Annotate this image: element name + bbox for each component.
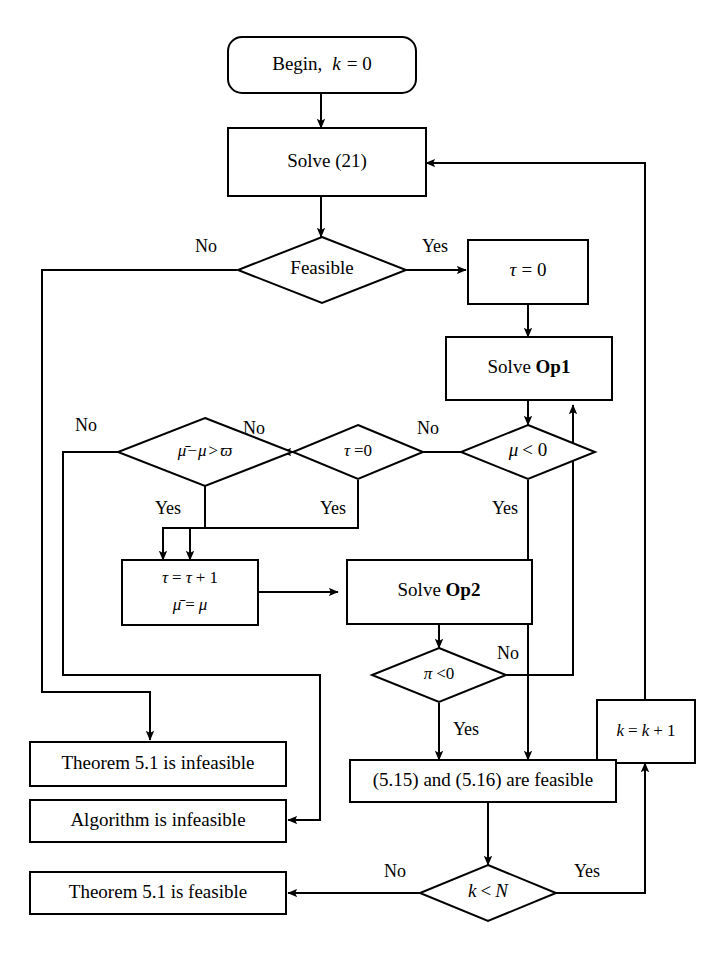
label-feasible-no: No [195, 236, 217, 256]
label-kltn-no: No [384, 861, 406, 881]
tau-eq-zero-label: τ=0 [344, 441, 372, 460]
node-tau-eq-zero[interactable]: τ=0 [293, 425, 423, 479]
label-pi-no: No [497, 643, 519, 663]
flowchart-page: Begin,k= 0 Solve (21) Feasible No Yes τ=… [0, 0, 726, 959]
node-feasible[interactable]: Feasible [238, 237, 406, 303]
node-tau-zero-assign[interactable]: τ= 0 [468, 240, 588, 304]
solve-op1-bold: Op1 [536, 356, 571, 377]
flowchart-canvas: Begin,k= 0 Solve (21) Feasible No Yes τ=… [0, 0, 726, 959]
label-pi-yes: Yes [453, 719, 479, 739]
feasible-label: Feasible [290, 257, 353, 278]
tau-zero-assign-label: τ= 0 [510, 259, 547, 280]
node-k-increment[interactable]: k=k+ 1 [597, 700, 695, 763]
edge-taudiamond-yes [190, 480, 358, 560]
node-theorem-feasible[interactable]: Theorem 5.1 is feasible [30, 872, 286, 914]
node-begin[interactable]: Begin,k= 0 [228, 37, 416, 93]
solve-op2-bold: Op2 [446, 579, 481, 600]
mu-lt-zero-label: μ< 0 [508, 439, 548, 460]
tau-increment-line2: μ̄=μ [172, 595, 208, 614]
node-theorem-infeasible[interactable]: Theorem 5.1 is infeasible [30, 742, 286, 786]
edge-feasible-no [42, 270, 237, 740]
node-mu-lt-zero[interactable]: μ< 0 [461, 425, 595, 479]
pi-lt-zero-label: π<0 [424, 664, 455, 683]
algorithm-infeasible-label: Algorithm is infeasible [70, 809, 245, 830]
theorem-feasible-label: Theorem 5.1 is feasible [69, 881, 247, 902]
begin-label: Begin,k= 0 [272, 53, 372, 74]
node-mubar-minus-mu[interactable]: μ̄−μ>ϖ [118, 418, 292, 486]
node-solve-op1[interactable]: Solve Op1 [446, 337, 612, 400]
label-feasible-yes: Yes [422, 236, 448, 256]
label-mubar-no: No [75, 415, 97, 435]
node-feasible-515-516[interactable]: (5.15) and (5.16) are feasible [350, 760, 616, 802]
theorem-infeasible-label: Theorem 5.1 is infeasible [61, 752, 254, 773]
mubar-minus-mu-label: μ̄−μ>ϖ [177, 441, 232, 460]
node-solve-op2[interactable]: Solve Op2 [347, 560, 532, 624]
label-kltn-yes: Yes [574, 861, 600, 881]
feasible-515-516-label: (5.15) and (5.16) are feasible [373, 769, 594, 791]
node-pi-lt-zero[interactable]: π<0 [372, 648, 506, 702]
solve-op2-plain: Solve [398, 579, 446, 600]
node-algorithm-infeasible[interactable]: Algorithm is infeasible [30, 800, 286, 842]
node-k-lt-n[interactable]: k<N [420, 865, 556, 921]
label-mu-yes: Yes [492, 498, 518, 518]
solve-op1-label: Solve Op1 [488, 356, 571, 377]
node-tau-increment[interactable]: τ=τ+ 1 μ̄=μ [122, 560, 258, 625]
label-mu-no: No [417, 418, 439, 438]
solve-op2-label: Solve Op2 [398, 579, 481, 600]
k-lt-n-label: k<N [468, 880, 509, 901]
label-mubar-yes: Yes [155, 498, 181, 518]
edge-mubar-yes [163, 480, 205, 560]
label-taudiamond-yes: Yes [320, 498, 346, 518]
solve-op1-plain: Solve [488, 356, 536, 377]
solve21-label: Solve (21) [287, 150, 367, 172]
node-solve21[interactable]: Solve (21) [228, 128, 426, 196]
